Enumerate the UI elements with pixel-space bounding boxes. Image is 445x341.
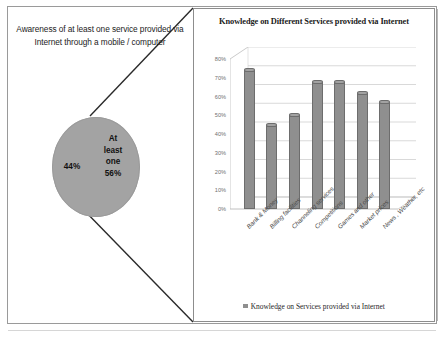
pie-label-major-line2: least [90, 145, 136, 157]
y-tick-label: 30% [215, 150, 226, 156]
y-tick-label: 60% [215, 94, 226, 100]
legend-label: Knowledge on Services provided via Inter… [251, 302, 385, 311]
chart-title: Knowledge on Different Services provided… [194, 17, 434, 26]
y-tick-label: 50% [215, 112, 226, 118]
bar-cap [379, 100, 390, 104]
y-tick-label: 0% [218, 206, 226, 212]
y-tick-label: 40% [215, 131, 226, 137]
awareness-pie-chart: At least one 56% 44% [52, 117, 140, 217]
bar-cap [357, 91, 368, 95]
bar-cap [266, 123, 277, 127]
bar-7 [379, 102, 390, 209]
bar-cap [334, 80, 345, 84]
y-tick-label: 10% [215, 187, 226, 193]
x-axis-category-labels: Bank & MoneyBilling facilitiesChanneling… [230, 221, 430, 299]
awareness-caption: Awareness of at least one service provid… [14, 23, 186, 48]
knowledge-chart-panel: Knowledge on Different Services provided… [193, 8, 435, 322]
chart-legend: Knowledge on Services provided via Inter… [194, 301, 434, 311]
y-tick-label: 20% [215, 169, 226, 175]
pie-label-minor: 44% [52, 161, 92, 173]
pie-label-major-line1: At [90, 133, 136, 145]
pie-label-major: At least one 56% [90, 133, 136, 179]
bar-5 [334, 82, 345, 210]
bar-6 [357, 93, 368, 209]
bar-cap [312, 80, 323, 84]
bar-4 [312, 82, 323, 210]
figure-root: Awareness of at least one service provid… [0, 0, 445, 341]
legend-swatch-icon [243, 304, 248, 309]
bar-cap [289, 113, 300, 117]
bar-1 [244, 70, 255, 209]
pie-label-major-line4: 56% [90, 168, 136, 180]
y-axis: 80%70%60%50%40%30%20%10%0% [204, 47, 228, 219]
y-tick-label: 70% [215, 75, 226, 81]
awareness-panel: Awareness of at least one service provid… [8, 7, 194, 323]
scan-bottom-edge [8, 330, 436, 331]
bar-3 [289, 115, 300, 209]
y-tick-label: 80% [215, 56, 226, 62]
pie-label-major-line3: one [90, 156, 136, 168]
bar-cap [244, 68, 255, 72]
